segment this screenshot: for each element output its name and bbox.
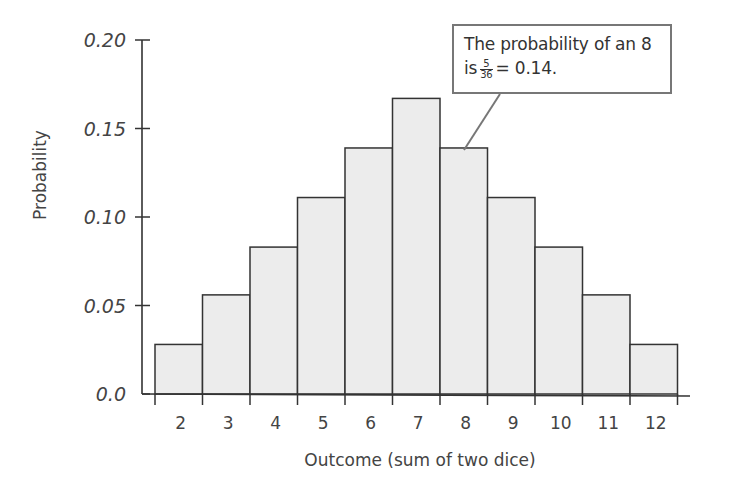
- bar-5: [298, 198, 346, 394]
- x-tick-label: 10: [550, 413, 572, 433]
- callout-line-1: The probability of an 8: [464, 32, 662, 56]
- bar-9: [488, 198, 536, 394]
- fraction-numerator: 5: [480, 59, 492, 70]
- x-tick-label: 4: [270, 413, 281, 433]
- x-tick-label: 2: [175, 413, 186, 433]
- bar-4: [250, 247, 298, 394]
- fraction: 536: [480, 59, 492, 80]
- y-tick-label: 0.05: [84, 295, 126, 317]
- x-tick-label: 6: [365, 413, 376, 433]
- callout-line-2: is536= 0.14.: [464, 56, 662, 80]
- callout-leader-line: [464, 94, 500, 150]
- y-tick-label: 0.0: [96, 383, 126, 405]
- bar-10: [535, 247, 583, 394]
- bar-2: [155, 344, 203, 394]
- bars-group: [155, 98, 678, 394]
- callout-prefix: is: [464, 58, 477, 78]
- y-ticks-group: 0.00.050.100.150.20: [84, 29, 150, 405]
- x-tick-label: 11: [597, 413, 619, 433]
- x-ticks-group: 23456789101112: [155, 394, 678, 433]
- bar-12: [630, 344, 678, 394]
- callout-suffix: = 0.14.: [496, 58, 558, 78]
- y-tick-label: 0.20: [84, 29, 126, 51]
- bar-7: [393, 98, 441, 394]
- fraction-denominator: 36: [480, 70, 492, 80]
- y-axis-label: Probability: [30, 130, 50, 220]
- callout-annotation: The probability of an 8 is536= 0.14.: [452, 24, 672, 94]
- x-tick-label: 12: [645, 413, 667, 433]
- y-tick-label: 0.15: [84, 118, 126, 140]
- bar-3: [203, 295, 251, 394]
- x-tick-label: 5: [318, 413, 329, 433]
- bar-11: [583, 295, 631, 394]
- x-axis-label: Outcome (sum of two dice): [304, 450, 535, 470]
- x-tick-label: 3: [223, 413, 234, 433]
- x-tick-label: 9: [508, 413, 519, 433]
- x-tick-label: 7: [413, 413, 424, 433]
- x-tick-label: 8: [460, 413, 471, 433]
- y-tick-label: 0.10: [84, 206, 126, 228]
- bar-8: [440, 148, 488, 394]
- bar-6: [345, 148, 393, 394]
